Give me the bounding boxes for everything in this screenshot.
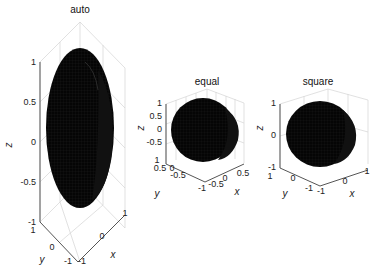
svg-text:x: x bbox=[110, 249, 117, 260]
svg-text:z: z bbox=[135, 126, 146, 132]
svg-text:1: 1 bbox=[271, 98, 276, 108]
svg-text:-1: -1 bbox=[78, 256, 86, 266]
svg-text:1: 1 bbox=[267, 171, 272, 181]
svg-text:z: z bbox=[3, 143, 14, 149]
svg-text:-1: -1 bbox=[317, 186, 325, 196]
ellipsoid-surface bbox=[46, 48, 114, 208]
y-axis: 1 0.5 0 -0.5 y bbox=[154, 155, 186, 199]
z-axis: 1 0.5 0 -0.5 -1 z bbox=[3, 57, 36, 227]
panel-title: auto bbox=[70, 4, 90, 15]
x-axis: -1 0 1 x bbox=[317, 166, 370, 199]
svg-text:-0.5: -0.5 bbox=[146, 137, 162, 147]
svg-text:0.5: 0.5 bbox=[23, 97, 36, 107]
y-axis: 1 0 -1 y bbox=[267, 171, 313, 199]
svg-text:y: y bbox=[282, 188, 289, 199]
svg-text:-0.5: -0.5 bbox=[170, 170, 186, 180]
figure: auto 1 0.5 0 bbox=[0, 0, 380, 269]
svg-text:-0.5: -0.5 bbox=[20, 177, 36, 187]
svg-text:-1: -1 bbox=[64, 256, 72, 266]
z-axis: 1 0.5 0 -0.5 z bbox=[135, 98, 162, 147]
x-axis: -1 -0.5 0 0.5 x bbox=[198, 168, 249, 197]
svg-text:1: 1 bbox=[364, 166, 369, 176]
svg-text:y: y bbox=[154, 188, 161, 199]
svg-text:0: 0 bbox=[99, 231, 104, 241]
svg-text:z: z bbox=[254, 126, 265, 132]
panel-square: square 1 0 -1 z 1 0 -1 y bbox=[254, 76, 370, 199]
svg-text:-0.5: -0.5 bbox=[208, 179, 224, 189]
panel-title: equal bbox=[195, 76, 219, 87]
x-axis: -1 0 1 x bbox=[78, 208, 128, 266]
svg-text:1: 1 bbox=[122, 208, 127, 218]
svg-text:0: 0 bbox=[222, 173, 227, 183]
svg-text:y: y bbox=[39, 254, 46, 265]
svg-text:x: x bbox=[234, 186, 241, 197]
panel-auto: auto 1 0.5 0 bbox=[3, 4, 128, 266]
svg-text:-1: -1 bbox=[198, 183, 206, 193]
svg-text:0.5: 0.5 bbox=[149, 111, 162, 121]
svg-text:0: 0 bbox=[271, 130, 276, 140]
svg-text:0: 0 bbox=[31, 137, 36, 147]
svg-text:0: 0 bbox=[290, 173, 295, 183]
panel-title: square bbox=[303, 76, 334, 87]
svg-text:0: 0 bbox=[342, 176, 347, 186]
svg-text:x: x bbox=[349, 188, 356, 199]
svg-text:0.5: 0.5 bbox=[154, 163, 167, 173]
panel-equal: equal 1 0.5 0 -0.5 z 1 0. bbox=[135, 76, 249, 199]
svg-text:-1: -1 bbox=[305, 183, 313, 193]
svg-text:0.5: 0.5 bbox=[237, 168, 250, 178]
sphere-surface bbox=[286, 101, 356, 167]
z-axis: 1 0 -1 z bbox=[254, 98, 276, 172]
svg-text:1: 1 bbox=[30, 225, 35, 235]
sphere-surface bbox=[171, 98, 239, 162]
y-axis: 1 0 -1 y bbox=[30, 225, 72, 266]
svg-text:1: 1 bbox=[157, 98, 162, 108]
svg-text:0: 0 bbox=[157, 124, 162, 134]
svg-text:1: 1 bbox=[31, 57, 36, 67]
svg-text:0: 0 bbox=[49, 242, 54, 252]
